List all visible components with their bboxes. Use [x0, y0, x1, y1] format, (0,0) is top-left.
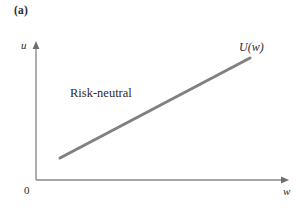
risk-preference-annotation: Risk-neutral — [70, 86, 132, 101]
utility-function-figure: (a) u w 0 U(w) Risk-neutral — [0, 0, 304, 214]
x-axis-arrowhead — [281, 177, 289, 184]
origin-label: 0 — [24, 184, 30, 196]
y-axis-label: u — [21, 39, 27, 51]
utility-curve-label: U(w) — [239, 40, 264, 55]
x-axis-label: w — [283, 185, 290, 197]
y-axis-arrowhead — [33, 41, 40, 49]
plot-canvas — [0, 0, 304, 214]
panel-label: (a) — [14, 4, 28, 16]
utility-curve-risk-neutral — [60, 58, 250, 158]
